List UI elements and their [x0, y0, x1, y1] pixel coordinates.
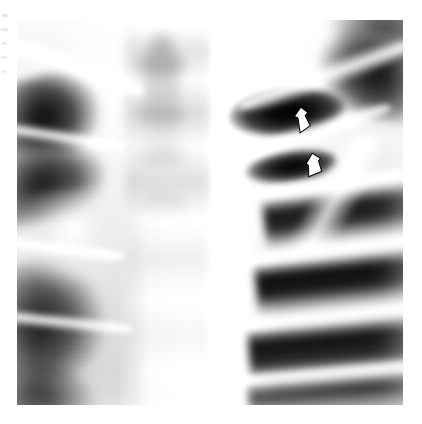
arrowhead-outline-icon	[303, 150, 328, 180]
scan-mark	[2, 42, 7, 45]
annotation-arrow-lower[interactable]	[303, 150, 328, 180]
scan-mark	[2, 70, 7, 73]
chest-radiograph-image	[17, 20, 403, 405]
scan-edge-marks	[0, 10, 16, 80]
page-canvas	[0, 0, 422, 424]
scan-mark	[1, 56, 7, 59]
scan-mark	[2, 14, 8, 17]
scan-mark	[1, 28, 8, 31]
film-vignette	[17, 20, 403, 405]
